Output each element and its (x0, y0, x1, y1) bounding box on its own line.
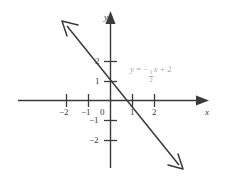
y-tick-label-pos2: 2 (95, 57, 100, 66)
x-tick-label-pos1: 1 (130, 108, 135, 117)
graph-figure: y x −2 −1 0 1 2 2 1 −1 −2 y = −12x + 2 (0, 0, 225, 189)
equation-variable: x (154, 64, 158, 74)
plotted-line (67, 26, 179, 165)
coordinate-plane (0, 0, 225, 189)
y-tick-label-neg2: −2 (89, 136, 99, 145)
equation-plus-sign: + (160, 64, 165, 74)
x-axis-arrowhead (196, 96, 209, 106)
y-tick-label-pos1: 1 (95, 77, 100, 86)
line-arrowhead-start (62, 21, 78, 36)
equation-annotation: y = −12x + 2 (130, 65, 172, 83)
x-tick-label-pos2: 2 (152, 108, 157, 117)
y-tick-label-neg1: −1 (89, 116, 99, 125)
equation-lhs: y (130, 64, 134, 74)
equation-constant: 2 (167, 64, 171, 74)
x-tick-label-neg2: −2 (59, 108, 69, 117)
y-axis-label: y (104, 13, 108, 22)
fraction-denominator: 2 (149, 76, 153, 84)
equation-minus-sign: − (144, 64, 149, 74)
x-tick-label-zero: 0 (100, 108, 105, 117)
equation-equals-sign: = (136, 64, 141, 74)
x-axis-label: x (205, 108, 209, 117)
